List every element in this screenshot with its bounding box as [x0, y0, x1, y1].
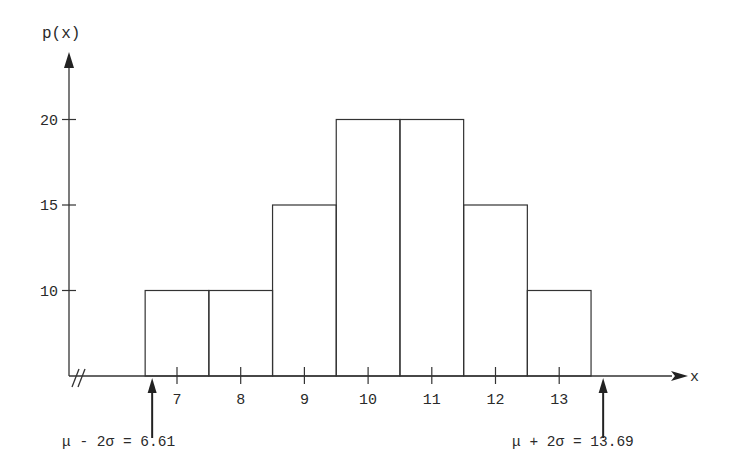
histogram-chart: p(x) 101520 x 78910111213 μ - 2σ = 6.61μ… [0, 0, 733, 474]
x-axis-arrow-icon [671, 371, 688, 381]
histogram-bar [400, 120, 464, 377]
y-ticks: 101520 [40, 113, 76, 301]
x-axis-label: x [690, 369, 699, 386]
histogram-bar [336, 120, 400, 377]
x-tick-label: 7 [172, 392, 181, 409]
axis-break-icon [72, 369, 85, 387]
x-tick-label: 11 [423, 392, 441, 409]
x-tick-label: 8 [236, 392, 245, 409]
histogram-bar [209, 291, 273, 377]
y-axis-arrow-icon [64, 52, 74, 68]
histogram-bar [273, 205, 337, 376]
histogram-bar [145, 291, 209, 377]
x-ticks: 78910111213 [172, 367, 568, 409]
x-tick-label: 10 [359, 392, 377, 409]
annotation-label: μ - 2σ = 6.61 [62, 434, 175, 450]
annotation-label: μ + 2σ = 13.69 [512, 434, 634, 450]
histogram-bars [145, 120, 591, 377]
x-tick-label: 9 [300, 392, 309, 409]
histogram-bar [464, 205, 528, 376]
arrow-up-icon [599, 378, 608, 393]
y-axis-label: p(x) [42, 25, 80, 43]
sigma-annotations: μ - 2σ = 6.61μ + 2σ = 13.69 [62, 378, 634, 450]
y-tick-label: 20 [40, 113, 58, 130]
x-tick-label: 12 [486, 392, 504, 409]
histogram-bar [527, 291, 591, 377]
y-tick-label: 10 [40, 284, 58, 301]
y-tick-label: 15 [40, 198, 58, 215]
arrow-up-icon [148, 378, 157, 393]
x-tick-label: 13 [550, 392, 568, 409]
